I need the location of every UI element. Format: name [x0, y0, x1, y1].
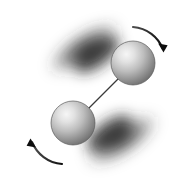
- figure-canvas: [0, 0, 180, 190]
- upper-right-sphere: [111, 41, 155, 85]
- lower-left-sphere: [51, 101, 95, 145]
- rotating-dumbbell-figure: Two shaded spheres joined by a thin rigi…: [0, 0, 180, 190]
